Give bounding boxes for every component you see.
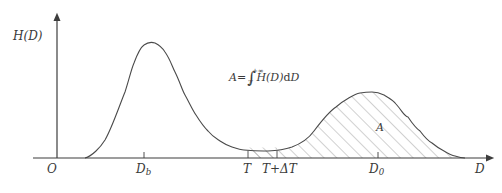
formula-equals: = xyxy=(237,71,246,84)
x-tick-label-db: Db xyxy=(136,163,151,177)
integral-sign-group: ∫+∞T xyxy=(247,68,255,87)
origin-label: O xyxy=(47,163,57,175)
integral-upper-limit: +∞ xyxy=(252,67,263,75)
d0-subscript: 0 xyxy=(379,167,385,177)
formula-variable: D xyxy=(291,71,300,84)
db-base: D xyxy=(136,162,146,176)
area-formula: A=∫+∞TH(D)dD xyxy=(229,68,299,87)
formula-differential: d xyxy=(283,71,290,84)
d0-base: D xyxy=(369,162,379,176)
x-tick-label-t: T xyxy=(243,163,251,175)
x-tick-label-t-plus-delta-t: T+ΔT xyxy=(262,163,297,175)
integral-lower-limit: T xyxy=(248,79,252,87)
formula-lhs: A xyxy=(229,71,237,84)
distribution-figure: H(D) O Db T T+ΔT D0 D A A=∫+∞TH(D)dD xyxy=(0,0,502,193)
x-tick-label-d0: D0 xyxy=(369,163,384,177)
x-axis-label: D xyxy=(475,163,485,175)
y-axis-label: H(D) xyxy=(13,30,42,42)
area-label-a: A xyxy=(376,122,384,133)
db-subscript: b xyxy=(146,167,152,177)
